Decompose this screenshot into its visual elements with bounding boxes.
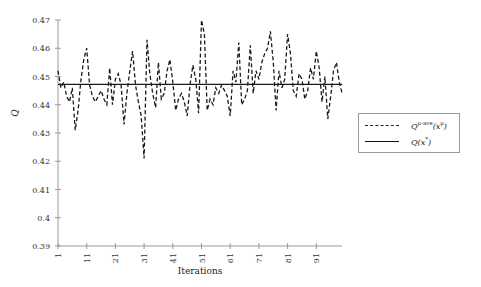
y-tick-label: 0.44 — [32, 101, 50, 110]
y-tick-label: 0.46 — [32, 44, 50, 53]
x-tick-label: 11 — [83, 253, 92, 263]
x-tick-label: 41 — [169, 253, 178, 263]
x-tick-label: 31 — [140, 253, 149, 263]
y-tick-label: 0.4 — [37, 214, 50, 223]
legend-label: Q(x*) — [411, 136, 431, 147]
axes: 0.390.40.410.420.430.440.450.460.4711121… — [10, 16, 342, 276]
y-tick-label: 0.43 — [32, 129, 50, 138]
legend: Qμ-ave(xμ) Q(x*) — [358, 113, 460, 153]
series-group — [58, 20, 342, 158]
x-tick-label: 61 — [226, 253, 235, 263]
y-tick-label: 0.45 — [32, 73, 50, 82]
x-tick-label: 91 — [312, 253, 321, 263]
x-tick-label: 21 — [111, 253, 120, 263]
solid-line-swatch — [365, 141, 399, 142]
y-tick-label: 0.47 — [32, 16, 50, 25]
x-tick-label: 1 — [54, 253, 63, 258]
legend-item-q-mu-ave: Qμ-ave(xμ) — [365, 118, 447, 132]
x-tick-label: 71 — [255, 253, 264, 263]
series-q-mu-ave-line — [58, 20, 342, 158]
y-tick-label: 0.39 — [32, 242, 50, 251]
legend-label: Qμ-ave(xμ) — [411, 120, 447, 131]
legend-item-q-x-star: Q(x*) — [365, 134, 431, 148]
y-axis-title: Q — [10, 109, 20, 117]
x-tick-label: 81 — [284, 253, 293, 263]
y-tick-label: 0.42 — [32, 157, 50, 166]
x-axis-title: Iterations — [178, 266, 223, 276]
x-tick-label: 51 — [198, 253, 207, 263]
dashed-line-swatch — [365, 125, 399, 126]
y-tick-label: 0.41 — [32, 186, 50, 195]
